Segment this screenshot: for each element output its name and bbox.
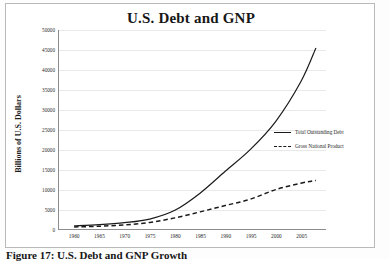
chart-frame: U.S. Debt and GNP Billions of U.S. Dolla…	[5, 3, 375, 248]
figure-caption: Figure 17: U.S. Debt and GNP Growth	[6, 249, 386, 261]
x-axis-tick-label: 1980	[170, 233, 181, 239]
legend-line-icon	[274, 146, 291, 147]
chart-title: U.S. Debt and GNP	[6, 10, 376, 27]
legend-line-icon	[274, 132, 291, 133]
x-axis-tick-label: 1995	[246, 233, 257, 239]
y-axis-tick-label: 25000	[42, 127, 55, 133]
y-axis-tick-label: 50000	[42, 27, 55, 33]
chart-legend: Total Outstanding DebtGross National Pro…	[274, 130, 344, 158]
x-axis-tick-label: 1985	[195, 233, 206, 239]
x-axis-tick-label: 2005	[296, 233, 307, 239]
series-line	[74, 180, 316, 226]
x-axis-tick-label: 1975	[145, 233, 156, 239]
y-axis-tick-label: 15000	[42, 167, 55, 173]
x-axis-tick-label: 1965	[94, 233, 105, 239]
y-axis-tick-label: 5000	[45, 207, 55, 213]
y-axis-tick-label: 20000	[42, 147, 55, 153]
x-axis-tick-label: 1990	[220, 233, 231, 239]
legend-label: Total Outstanding Debt	[295, 130, 344, 135]
y-axis-tick-label: 45000	[42, 47, 55, 53]
y-axis-tick-label: 30000	[42, 107, 55, 113]
y-axis-label: Billions of U.S. Dollars	[14, 95, 23, 173]
y-axis-tick-label: 10000	[42, 187, 55, 193]
legend-label: Gross National Product	[295, 144, 344, 149]
y-axis-tick-label: 40000	[42, 67, 55, 73]
x-axis-tick-label: 2000	[271, 233, 282, 239]
y-axis-tick-label: 0	[52, 227, 55, 233]
legend-item: Gross National Product	[274, 144, 344, 149]
legend-item: Total Outstanding Debt	[274, 130, 344, 135]
y-axis-tick-label: 35000	[42, 87, 55, 93]
x-axis-tick-label: 1960	[69, 233, 80, 239]
x-axis-tick-label: 1970	[119, 233, 130, 239]
